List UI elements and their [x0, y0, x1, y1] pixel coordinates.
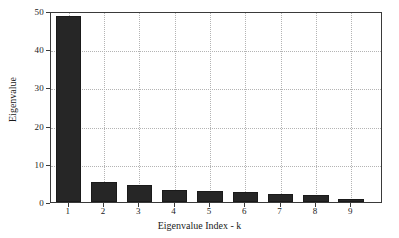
bar	[127, 185, 152, 202]
gridline-vertical	[139, 13, 140, 202]
bar	[91, 182, 116, 202]
y-tick-label: 20	[0, 123, 44, 132]
y-tick-mark	[46, 203, 50, 204]
x-axis-title: Eigenvalue Index - k	[0, 220, 399, 232]
gridline-vertical	[351, 13, 352, 202]
bar	[268, 194, 293, 202]
x-tick-label: 5	[194, 206, 224, 216]
y-tick-label: 50	[0, 8, 44, 17]
x-tick-label: 3	[123, 206, 153, 216]
x-tick-label: 2	[88, 206, 118, 216]
gridline-horizontal	[51, 51, 381, 52]
bar	[162, 190, 187, 202]
gridline-vertical	[104, 13, 105, 202]
y-axis-title-container: Eigenvalue	[0, 0, 22, 203]
x-tick-label: 8	[300, 206, 330, 216]
gridline-vertical	[210, 13, 211, 202]
y-tick-label: 30	[0, 84, 44, 93]
y-tick-label: 10	[0, 161, 44, 170]
x-tick-label: 1	[53, 206, 83, 216]
x-tick-label: 7	[265, 206, 295, 216]
gridline-vertical	[316, 13, 317, 202]
eigenvalue-bar-chart-figure: Eigenvalue 01020304050 123456789 Eigenva…	[0, 0, 399, 238]
gridline-vertical	[281, 13, 282, 202]
bar	[303, 195, 328, 202]
y-tick-label: 40	[0, 46, 44, 55]
gridline-horizontal	[51, 89, 381, 90]
bar	[338, 199, 363, 202]
bar	[197, 191, 222, 202]
plot-area	[50, 12, 382, 203]
gridline-horizontal	[51, 166, 381, 167]
bar	[233, 192, 258, 202]
gridline-vertical	[245, 13, 246, 202]
bar	[56, 16, 81, 202]
x-tick-label: 9	[335, 206, 365, 216]
x-tick-label: 6	[229, 206, 259, 216]
gridline-horizontal	[51, 128, 381, 129]
x-tick-label: 4	[159, 206, 189, 216]
gridline-vertical	[175, 13, 176, 202]
y-tick-label: 0	[0, 199, 44, 208]
